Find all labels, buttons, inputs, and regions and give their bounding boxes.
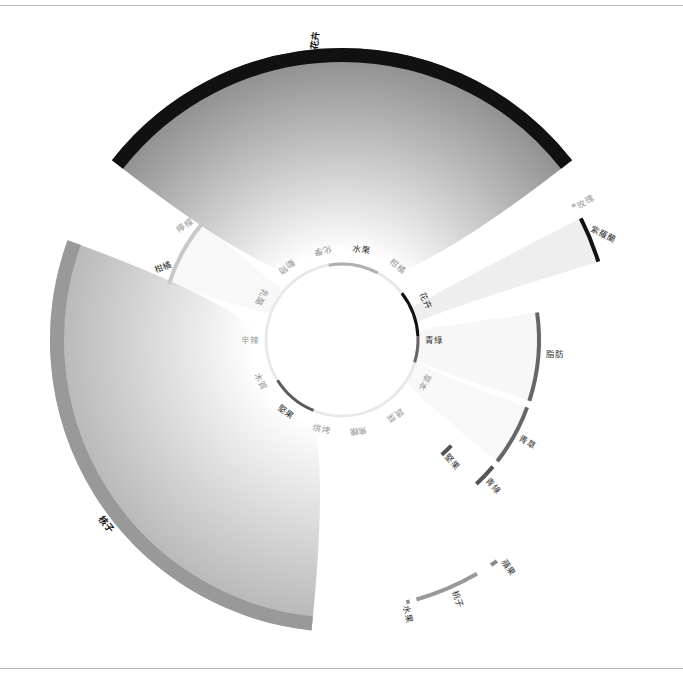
chart-label: 桃子 xyxy=(450,589,466,609)
sub-arc xyxy=(416,574,477,600)
sub-arc xyxy=(573,204,575,207)
sub-arc xyxy=(406,601,409,602)
chart-label: 青綠 xyxy=(484,476,503,496)
chart-label: 脂肪 xyxy=(546,349,564,359)
inner-ring xyxy=(266,264,418,416)
sub-arc xyxy=(491,561,497,565)
chart-label: 青綠 xyxy=(425,335,443,345)
chart-label: 蔬菜 xyxy=(385,407,405,426)
sector-flower xyxy=(112,48,572,278)
chart-label: 蘋果 xyxy=(499,558,517,579)
chart-label: 水果 xyxy=(401,604,415,624)
chart-label: 紫羅蘭 xyxy=(589,224,618,244)
chart-label: 青草 xyxy=(517,434,538,452)
chart-label: 堅果 xyxy=(442,452,461,472)
chart-label: 玫瑰 xyxy=(575,193,596,210)
chart-label: 辛辣 xyxy=(241,335,259,345)
chart-label: 花卉 xyxy=(308,31,321,50)
aroma-wheel-chart: 水果柑橘花卉青綠草本蔬菜焦糖烘烤堅果木質辛辣乳酪動物化學花卉核子玫瑰紫羅蘭脂肪青… xyxy=(0,0,683,679)
chart-label: 焦糖 xyxy=(348,425,367,438)
chart-label: 柑橘 xyxy=(153,259,173,275)
